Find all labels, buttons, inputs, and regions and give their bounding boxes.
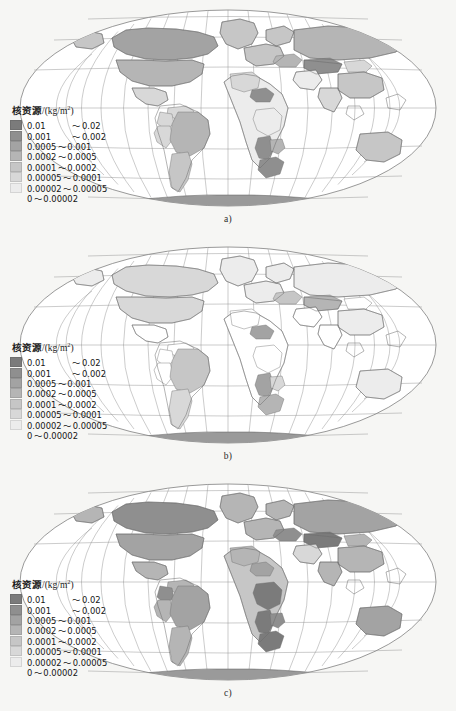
legend-swatch xyxy=(10,615,22,625)
legend-a: 核资源/(kg/m2) 0.01～0.02 0.001～0.002 0.0005… xyxy=(10,103,107,203)
panel-caption-c: c) xyxy=(0,688,456,698)
legend-swatch xyxy=(10,131,22,141)
figure-page: 核资源/(kg/m2) 0.01～0.02 0.001～0.002 0.0005… xyxy=(0,0,456,711)
legend-row: 0～0.00002 xyxy=(10,430,107,440)
legend-swatch xyxy=(10,193,22,203)
legend-swatch xyxy=(10,357,22,367)
legend-swatch xyxy=(10,636,22,646)
legend-swatch xyxy=(10,420,22,430)
legend-swatch xyxy=(10,172,22,182)
panel-caption-a: a) xyxy=(0,214,456,224)
legend-label: 0～0.00002 xyxy=(27,192,78,204)
legend-swatch xyxy=(10,141,22,151)
legend-rows-b: 0.01～0.02 0.001～0.002 0.0005～0.001 0.000… xyxy=(10,357,107,440)
legend-swatch xyxy=(10,657,22,667)
legend-swatch xyxy=(10,399,22,409)
legend-swatch xyxy=(10,120,22,130)
map-panel-a: 核资源/(kg/m2) 0.01～0.02 0.001～0.002 0.0005… xyxy=(0,0,456,237)
legend-row: 0～0.00002 xyxy=(10,667,107,677)
legend-c: 核资源/(kg/m2) 0.01～0.02 0.001～0.002 0.0005… xyxy=(10,577,107,677)
legend-swatch xyxy=(10,183,22,193)
legend-title-c: 核资源/(kg/m2) xyxy=(12,577,107,591)
legend-swatch xyxy=(10,625,22,635)
legend-row: 0～0.00002 xyxy=(10,193,107,203)
map-panel-b: 核资源/(kg/m2) 0.01～0.02 0.001～0.002 0.0005… xyxy=(0,237,456,474)
legend-swatch xyxy=(10,368,22,378)
legend-rows-a: 0.01～0.02 0.001～0.002 0.0005～0.001 0.000… xyxy=(10,120,107,203)
legend-swatch xyxy=(10,646,22,656)
legend-swatch xyxy=(10,388,22,398)
legend-swatch xyxy=(10,667,22,677)
legend-swatch xyxy=(10,151,22,161)
legend-title-b: 核资源/(kg/m2) xyxy=(12,340,107,354)
legend-swatch xyxy=(10,378,22,388)
legend-label: 0～0.00002 xyxy=(27,666,78,678)
legend-b: 核资源/(kg/m2) 0.01～0.02 0.001～0.002 0.0005… xyxy=(10,340,107,440)
legend-swatch xyxy=(10,162,22,172)
legend-label: 0～0.00002 xyxy=(27,429,78,441)
legend-swatch xyxy=(10,605,22,615)
legend-rows-c: 0.01～0.02 0.001～0.002 0.0005～0.001 0.000… xyxy=(10,594,107,677)
legend-swatch xyxy=(10,594,22,604)
legend-swatch xyxy=(10,430,22,440)
panel-caption-b: b) xyxy=(0,451,456,461)
legend-title-a: 核资源/(kg/m2) xyxy=(12,103,107,117)
map-panel-c: 核资源/(kg/m2) 0.01～0.02 0.001～0.002 0.0005… xyxy=(0,474,456,711)
legend-swatch xyxy=(10,409,22,419)
